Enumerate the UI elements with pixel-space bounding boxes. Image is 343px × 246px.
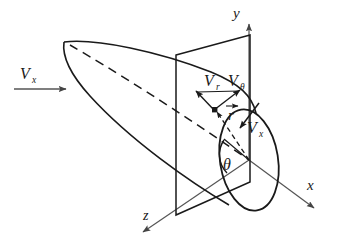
plane-outline [176,35,250,215]
theta-angle-label: θ [223,156,231,173]
radial-velocity-label: V [204,72,216,89]
radial-velocity-subscript: r [216,82,220,92]
axis-group [143,24,314,232]
tangential-velocity-subscript: θ [240,82,245,92]
body-of-revolution [64,41,256,205]
radius-vector-label: r [228,107,234,123]
radial-velocity-arrow [196,91,214,110]
velocity-components-diagram: y x z V x V r V θ V x r θ [0,0,343,246]
axial-velocity-label: V [247,119,259,136]
freestream-velocity-subscript: x [31,75,37,85]
x-axis-label: x [306,177,314,193]
body-lower-contour [64,42,229,205]
x-axis-line [249,160,314,208]
axial-velocity-subscript: x [258,129,264,139]
y-axis-label: y [231,5,240,21]
z-axis-label: z [142,208,149,223]
tangential-velocity-arrow [214,90,240,110]
freestream-velocity-label: V [20,65,32,82]
diagram-canvas: y x z V x V r V θ V x r θ [0,0,343,246]
cross-flow-plane [176,35,250,215]
